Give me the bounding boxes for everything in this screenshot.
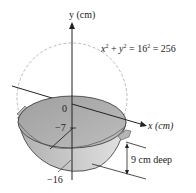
svg-text:x2 + y2 = 162 = 256: x2 + y2 = 162 = 256 bbox=[100, 43, 176, 54]
tick-label-minus-seven: −7 bbox=[55, 122, 66, 133]
depth-guide-bottom bbox=[92, 164, 146, 179]
y-axis-arrow-icon bbox=[69, 22, 75, 29]
depth-label: 9 cm deep bbox=[131, 154, 172, 165]
depth-guide-top bbox=[126, 142, 146, 148]
circle-equation: x2 + y2 = 162 = 256 bbox=[100, 43, 176, 54]
depth-arrow-up-icon bbox=[125, 143, 129, 148]
tick-label-minus-sixteen: −16 bbox=[47, 174, 63, 185]
y-axis-label: y (cm) bbox=[69, 9, 95, 21]
x-axis-arrow-icon bbox=[140, 121, 147, 127]
wok-diagram: y (cm) x (cm) x2 + y2 = 162 = 256 0 −7 −… bbox=[0, 0, 196, 193]
tick-label-zero: 0 bbox=[62, 103, 67, 114]
x-axis-label: x (cm) bbox=[147, 120, 174, 132]
